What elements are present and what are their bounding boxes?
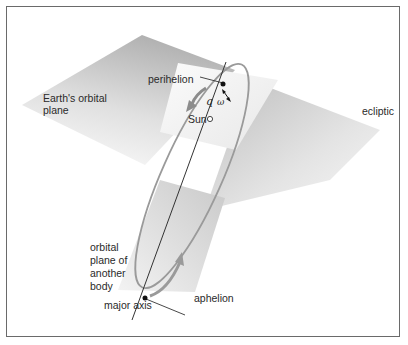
orbital-plane-label-1: orbital: [90, 241, 119, 254]
earth-orbital-plane-label-2: plane: [43, 104, 69, 117]
ecliptic-label: ecliptic: [362, 105, 394, 118]
orbital-plane-label-2: plane of: [90, 254, 127, 267]
sun-marker: [207, 116, 212, 121]
perihelion-label: perihelion: [148, 73, 194, 86]
major-axis-label: major axis: [104, 299, 152, 312]
orbital-plane-lower: [118, 180, 225, 292]
omega-label: ω: [217, 97, 224, 107]
sun-label: Sun: [188, 113, 207, 126]
perihelion-point: [221, 82, 226, 87]
orbital-plane-label-4: body: [90, 280, 113, 293]
aphelion-label: aphelion: [194, 292, 234, 305]
q-label: q: [206, 95, 213, 108]
orbital-plane-label-3: another: [90, 267, 126, 280]
